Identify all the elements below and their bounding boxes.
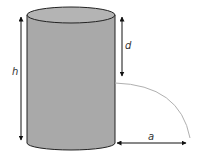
depth-label: d — [125, 40, 132, 51]
distance-label: a — [148, 131, 154, 142]
cylinder-diagram: h d a — [0, 0, 199, 157]
cylinder-body — [27, 15, 115, 150]
height-label: h — [12, 66, 18, 77]
cylinder-top — [27, 7, 115, 23]
water-jet-arc — [115, 83, 190, 138]
